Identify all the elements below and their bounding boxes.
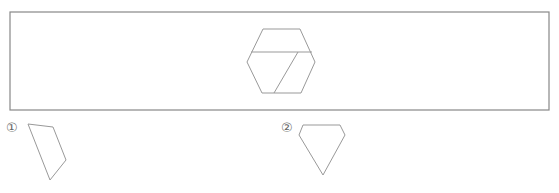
puzzle-frame <box>10 12 549 110</box>
figure-canvas <box>0 0 559 193</box>
hexagon-division-lines <box>251 52 312 93</box>
option-2-label: ② <box>281 121 293 134</box>
hexagon-shape <box>247 29 315 93</box>
hexagon-inner-line <box>274 52 298 93</box>
option-2-shape <box>299 125 345 175</box>
option-1-shape <box>28 124 66 180</box>
option-1-label: ① <box>6 121 18 134</box>
